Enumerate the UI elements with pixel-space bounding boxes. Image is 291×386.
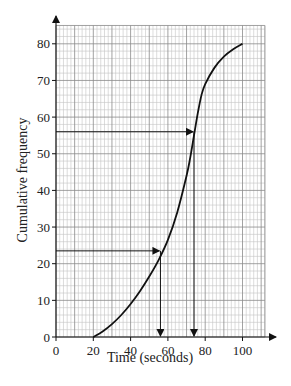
x-tick-label: 80 bbox=[199, 343, 212, 358]
y-tick-label: 10 bbox=[37, 293, 50, 308]
x-tick-label: 20 bbox=[87, 343, 100, 358]
y-tick-label: 80 bbox=[37, 36, 50, 51]
x-axis-label: Time (seconds) bbox=[107, 350, 194, 366]
x-tick-label: 100 bbox=[233, 343, 253, 358]
y-tick-label: 30 bbox=[37, 220, 50, 235]
x-tick-label: 0 bbox=[53, 343, 60, 358]
axes bbox=[56, 16, 276, 337]
y-tick-label: 50 bbox=[37, 146, 50, 161]
y-tick-label: 60 bbox=[37, 110, 50, 125]
reading-arrows bbox=[56, 132, 194, 336]
y-tick-label: 20 bbox=[37, 256, 50, 271]
y-axis-label: Cumulative frequency bbox=[15, 118, 30, 243]
y-tick-label: 0 bbox=[44, 330, 51, 345]
y-tick-label: 70 bbox=[37, 73, 50, 88]
cumulative-frequency-chart: 02040608010001020304050607080 Time (seco… bbox=[0, 0, 291, 386]
y-tick-label: 40 bbox=[37, 183, 50, 198]
